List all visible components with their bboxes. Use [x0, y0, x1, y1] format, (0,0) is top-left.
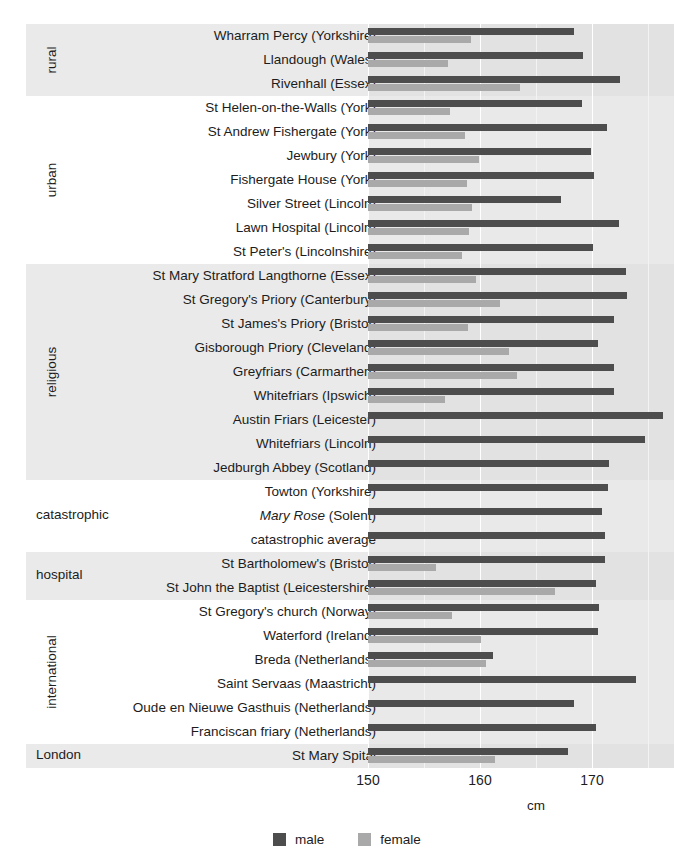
chart-row: Oude en Nieuwe Gasthuis (Netherlands) [0, 696, 694, 720]
bar-male [368, 460, 609, 467]
bar-female [368, 60, 448, 67]
row-bars [368, 72, 674, 96]
chart-row: Whitefriars (Ipswich) [0, 384, 694, 408]
row-bars [368, 600, 674, 624]
row-label: Towton (Yorkshire) [265, 480, 376, 504]
chart-row: St Mary Spital [0, 744, 694, 768]
chart-row: Breda (Netherlands) [0, 648, 694, 672]
row-bars [368, 672, 674, 696]
row-bars [368, 432, 674, 456]
chart-row: St Gregory's Priory (Canterbury) [0, 288, 694, 312]
bar-female [368, 660, 486, 667]
bar-male [368, 532, 605, 539]
bar-male [368, 724, 596, 731]
chart-row: St Gregory's church (Norway) [0, 600, 694, 624]
bar-female [368, 228, 469, 235]
bar-male [368, 148, 591, 155]
bar-male [368, 700, 574, 707]
bar-male [368, 604, 599, 611]
chart-row: Jedburgh Abbey (Scotland) [0, 456, 694, 480]
bar-female [368, 84, 520, 91]
row-label: Waterford (Ireland) [263, 624, 376, 648]
group-label-international: international [44, 635, 59, 709]
row-label: Gisborough Priory (Cleveland) [194, 336, 376, 360]
bar-male [368, 676, 636, 683]
chart-row: St Bartholomew's (Bristol) [0, 552, 694, 576]
group-label-hospital: hospital [36, 567, 83, 582]
legend-swatch-female [358, 833, 371, 846]
row-bars [368, 288, 674, 312]
bar-male [368, 244, 593, 251]
chart-row: Waterford (Ireland) [0, 624, 694, 648]
chart-row: Lawn Hospital (Lincoln) [0, 216, 694, 240]
row-bars [368, 216, 674, 240]
bar-female [368, 564, 436, 571]
bar-female [368, 756, 495, 763]
chart-row: Austin Friars (Leicester) [0, 408, 694, 432]
row-bars [368, 96, 674, 120]
chart-legend: male female [0, 832, 694, 847]
bar-male [368, 484, 608, 491]
row-label: Jewbury (York) [286, 144, 376, 168]
bar-female [368, 372, 517, 379]
row-label: St Peter's (Lincolnshire) [233, 240, 376, 264]
bar-female [368, 588, 555, 595]
bar-female [368, 156, 479, 163]
row-label: Llandough (Wales) [263, 48, 376, 72]
bar-male [368, 436, 645, 443]
chart-row: Greyfriars (Carmarthen) [0, 360, 694, 384]
x-tick-160: 160 [468, 772, 491, 788]
bar-female [368, 36, 471, 43]
bar-male [368, 268, 626, 275]
group-label-catastrophic: catastrophic [36, 507, 109, 522]
row-label: Wharram Percy (Yorkshire) [214, 24, 376, 48]
bar-male [368, 748, 568, 755]
group-label-london: London [36, 747, 81, 762]
row-bars [368, 24, 674, 48]
row-label: Silver Street (Lincoln) [247, 192, 376, 216]
row-label: Oude en Nieuwe Gasthuis (Netherlands) [133, 696, 376, 720]
row-label: Fishergate House (York) [230, 168, 376, 192]
group-label-religious: religious [44, 347, 59, 397]
bar-female [368, 300, 500, 307]
row-bars [368, 312, 674, 336]
row-label: Lawn Hospital (Lincoln) [236, 216, 376, 240]
row-bars [368, 384, 674, 408]
rows-layer: Wharram Percy (Yorkshire)Llandough (Wale… [0, 24, 694, 748]
x-axis-title: cm [0, 798, 694, 813]
bar-male [368, 508, 602, 515]
row-bars [368, 168, 674, 192]
row-label: Breda (Netherlands) [254, 648, 376, 672]
row-bars [368, 264, 674, 288]
chart-row: Whitefriars (Lincoln) [0, 432, 694, 456]
bar-male [368, 316, 614, 323]
row-label: Saint Servaas (Maastricht) [217, 672, 376, 696]
row-bars [368, 360, 674, 384]
chart-row: St John the Baptist (Leicestershire) [0, 576, 694, 600]
chart-row: catastrophic average [0, 528, 694, 552]
bar-male [368, 196, 561, 203]
row-bars [368, 624, 674, 648]
bar-female [368, 324, 468, 331]
row-label: Jedburgh Abbey (Scotland) [213, 456, 376, 480]
bar-male [368, 652, 493, 659]
row-label: Whitefriars (Lincoln) [256, 432, 376, 456]
row-label: St Gregory's church (Norway) [199, 600, 376, 624]
row-label: Greyfriars (Carmarthen) [233, 360, 376, 384]
row-bars [368, 576, 674, 600]
row-label: Whitefriars (Ipswich) [254, 384, 376, 408]
bar-female [368, 612, 452, 619]
chart-row: St Andrew Fishergate (York) [0, 120, 694, 144]
group-label-rural: rural [44, 46, 59, 73]
row-label: Mary Rose (Solent) [260, 504, 376, 528]
row-bars [368, 408, 674, 432]
bar-female [368, 132, 465, 139]
chart-row: Gisborough Priory (Cleveland) [0, 336, 694, 360]
bar-female [368, 396, 445, 403]
chart-row: St James's Priory (Bristol) [0, 312, 694, 336]
chart-row: Franciscan friary (Netherlands) [0, 720, 694, 744]
row-bars [368, 744, 674, 768]
bar-male [368, 340, 598, 347]
bar-female [368, 636, 481, 643]
bar-female [368, 252, 462, 259]
